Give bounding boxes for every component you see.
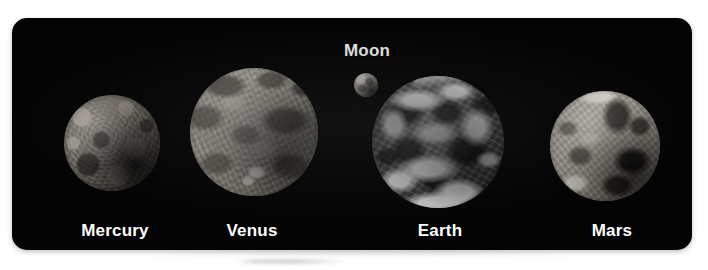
label-moon: Moon xyxy=(307,41,427,61)
earth-sphere xyxy=(372,76,504,208)
planet-mars-icon xyxy=(550,91,660,201)
planet-comparison-panel: Moon xyxy=(12,18,692,250)
scan-artifact-smudge xyxy=(236,259,346,264)
label-mercury: Mercury xyxy=(55,221,175,241)
mars-terminator-shading xyxy=(550,91,660,201)
scan-artifact-band xyxy=(150,251,570,255)
planet-mercury-icon xyxy=(64,95,160,191)
earth-terminator-shading xyxy=(372,76,504,208)
mercury-sphere xyxy=(64,95,160,191)
mercury-terminator-shading xyxy=(64,95,160,191)
venus-terminator-shading xyxy=(190,68,318,196)
label-mars: Mars xyxy=(552,221,672,241)
label-venus: Venus xyxy=(192,221,312,241)
planet-venus-icon xyxy=(190,68,318,196)
planet-earth-icon xyxy=(372,76,504,208)
label-earth: Earth xyxy=(380,221,500,241)
mars-sphere xyxy=(550,91,660,201)
venus-sphere xyxy=(190,68,318,196)
page-background: Moon xyxy=(0,0,708,270)
